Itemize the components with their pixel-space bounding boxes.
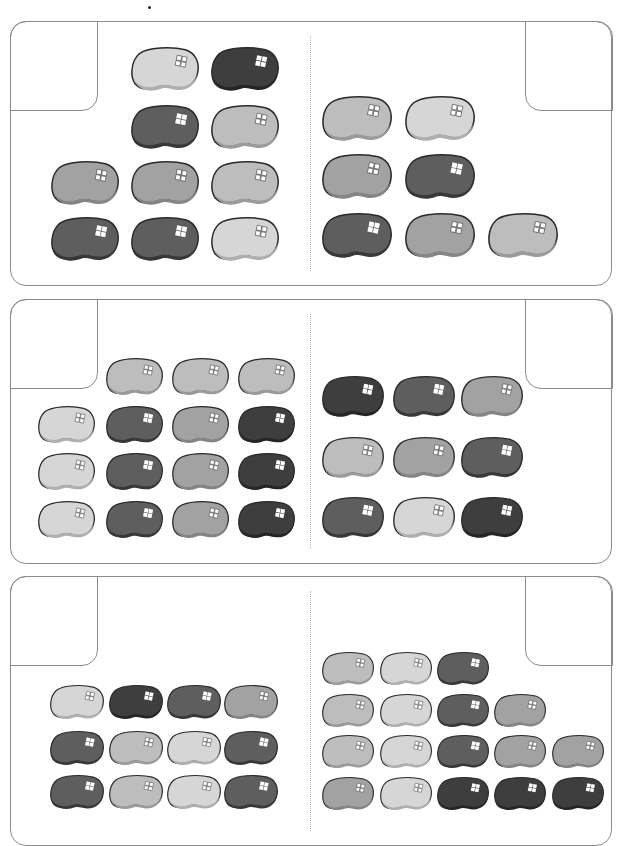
window-glint-icon [95,169,107,181]
window-glint-icon [209,460,219,470]
window-glint-icon [414,741,423,750]
bean-dark [437,652,489,686]
answer-box-left[interactable] [10,576,98,666]
bean-light [211,217,279,262]
window-glint-icon [255,113,267,125]
bean-dark [106,501,163,539]
bean-light [167,731,221,766]
bean-lightmed [211,105,279,150]
window-glint-icon [75,413,85,423]
bean-dark [405,154,475,200]
window-glint-icon [367,104,379,116]
bean-dark [51,217,119,262]
bean-dark [224,775,278,810]
bean-darkest [238,501,295,539]
dotted-divider [310,591,311,831]
window-glint-icon [255,169,267,181]
bean-dark [50,775,104,810]
window-glint-icon [144,737,154,746]
bean-lightmed [322,652,374,686]
bean-light [380,694,432,728]
bean-light [167,775,221,810]
window-glint-icon [75,460,85,470]
window-glint-icon [175,55,187,67]
bean-dark [393,376,455,418]
window-glint-icon [450,221,462,233]
dotted-divider [310,314,311,549]
bean-medium [405,213,475,259]
window-glint-icon [175,169,187,181]
bean-light [380,652,432,686]
window-glint-icon [356,741,365,750]
answer-box-right[interactable] [525,21,613,111]
bean-medium [224,685,278,720]
bean-medium [494,694,546,728]
bean-darkest [211,47,279,92]
window-glint-icon [414,700,423,709]
bean-lightmed [238,358,295,396]
window-glint-icon [414,783,423,792]
bean-lightmed [322,694,374,728]
window-glint-icon [255,225,267,237]
window-glint-icon [275,365,285,375]
bean-medium [393,437,455,479]
bean-medium [172,453,229,491]
bean-light [38,501,95,539]
bean-darkest [109,685,163,720]
bean-light [380,777,432,811]
window-glint-icon [586,741,595,750]
bean-lightmed [106,358,163,396]
bean-dark [437,694,489,728]
window-glint-icon [356,700,365,709]
bean-medium [552,735,604,769]
bean-dark [106,406,163,444]
bean-light [380,735,432,769]
window-glint-icon [209,365,219,375]
window-glint-icon [75,508,85,518]
bean-dark [131,105,199,150]
window-glint-icon [209,508,219,518]
bean-medium [172,406,229,444]
bean-dark [461,437,523,479]
bean-dark [437,735,489,769]
bean-medium [322,154,392,200]
bean-lightmed [172,358,229,396]
window-glint-icon [414,658,423,667]
bean-lightmed [488,213,558,259]
bean-light [50,685,104,720]
answer-box-right[interactable] [525,576,613,666]
answer-box-right[interactable] [525,299,613,389]
window-glint-icon [259,691,269,700]
bean-dark [106,453,163,491]
bean-medium [322,777,374,811]
window-glint-icon [356,783,365,792]
bean-lightmed [322,735,374,769]
window-glint-icon [202,737,212,746]
bean-dark [50,731,104,766]
bean-lightmed [322,96,392,142]
bean-lightmed [322,437,384,479]
window-glint-icon [450,104,462,116]
bean-darkest [461,497,523,539]
bean-medium [131,161,199,206]
answer-box-left[interactable] [10,299,98,389]
window-glint-icon [528,741,537,750]
window-glint-icon [356,658,365,667]
bean-medium [494,735,546,769]
bean-dark [322,497,384,539]
window-glint-icon [533,221,545,233]
bean-darkest [494,777,546,811]
bean-darkest [437,777,489,811]
bean-darkest [552,777,604,811]
window-glint-icon [202,781,212,790]
bean-dark [167,685,221,720]
window-glint-icon [144,781,154,790]
bean-light [38,406,95,444]
stray-mark [148,6,151,9]
window-glint-icon [433,445,444,456]
bean-darkest [322,376,384,418]
answer-box-left[interactable] [10,21,98,111]
window-glint-icon [433,505,444,516]
bean-lightmed [109,731,163,766]
bean-medium [172,501,229,539]
